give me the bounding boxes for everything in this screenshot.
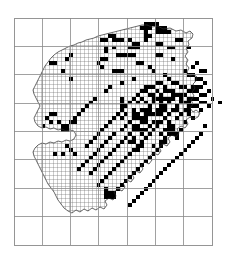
presence-cell bbox=[187, 144, 191, 148]
presence-cell bbox=[191, 65, 195, 69]
presence-cell bbox=[159, 108, 163, 112]
presence-cell bbox=[175, 116, 179, 120]
presence-cell bbox=[144, 101, 148, 105]
presence-cell bbox=[171, 124, 175, 128]
presence-cell bbox=[159, 120, 163, 124]
presence-cell bbox=[69, 53, 73, 57]
presence-cell bbox=[175, 38, 179, 42]
presence-cell bbox=[93, 136, 97, 140]
presence-cell bbox=[167, 120, 171, 124]
presence-cell bbox=[136, 112, 140, 116]
presence-cell bbox=[195, 136, 199, 140]
presence-cell bbox=[152, 69, 156, 73]
presence-cell bbox=[132, 108, 136, 112]
presence-cell bbox=[187, 101, 191, 105]
presence-cell bbox=[148, 85, 152, 89]
presence-cell bbox=[163, 167, 167, 171]
presence-cell bbox=[61, 124, 65, 128]
presence-cell bbox=[93, 167, 97, 171]
presence-cell bbox=[81, 163, 85, 167]
presence-cell bbox=[159, 81, 163, 85]
presence-cell bbox=[136, 124, 140, 128]
presence-cell bbox=[144, 85, 148, 89]
presence-cell bbox=[187, 89, 191, 93]
presence-cell bbox=[148, 183, 152, 187]
presence-cell bbox=[140, 108, 144, 112]
presence-cell bbox=[136, 61, 140, 65]
presence-cell bbox=[211, 97, 215, 101]
presence-cell bbox=[100, 65, 104, 69]
presence-cell bbox=[116, 53, 120, 57]
presence-cell bbox=[203, 81, 207, 85]
presence-cell bbox=[140, 61, 144, 65]
presence-cell bbox=[45, 116, 49, 120]
presence-cell bbox=[57, 120, 61, 124]
presence-cell bbox=[152, 85, 156, 89]
presence-cell bbox=[144, 26, 148, 30]
presence-cell bbox=[69, 77, 73, 81]
presence-cell bbox=[167, 163, 171, 167]
presence-cell bbox=[144, 89, 148, 93]
presence-cell bbox=[155, 30, 159, 34]
presence-cell bbox=[179, 101, 183, 105]
presence-cell bbox=[65, 57, 69, 61]
presence-cell bbox=[132, 53, 136, 57]
presence-cell bbox=[104, 195, 108, 199]
presence-cell bbox=[148, 93, 152, 97]
presence-cell bbox=[132, 148, 136, 152]
presence-cell bbox=[179, 93, 183, 97]
presence-cell bbox=[203, 69, 207, 73]
presence-cell bbox=[116, 163, 120, 167]
presence-cell bbox=[120, 140, 124, 144]
presence-cell bbox=[132, 77, 136, 81]
presence-cell bbox=[163, 104, 167, 108]
presence-cell bbox=[167, 89, 171, 93]
presence-cell bbox=[104, 89, 108, 93]
presence-cell bbox=[73, 152, 77, 156]
presence-cell bbox=[191, 140, 195, 144]
presence-cell bbox=[155, 53, 159, 57]
presence-cell bbox=[136, 148, 140, 152]
presence-cell bbox=[128, 132, 132, 136]
presence-cell bbox=[108, 191, 112, 195]
presence-cell bbox=[159, 42, 163, 46]
presence-cell bbox=[144, 136, 148, 140]
presence-cell bbox=[148, 132, 152, 136]
presence-cell bbox=[195, 89, 199, 93]
presence-cell bbox=[104, 191, 108, 195]
presence-cell bbox=[140, 144, 144, 148]
presence-cell bbox=[53, 112, 57, 116]
presence-cell bbox=[108, 136, 112, 140]
map-canvas bbox=[0, 0, 225, 263]
presence-cell bbox=[167, 132, 171, 136]
presence-cell bbox=[128, 120, 132, 124]
presence-cell bbox=[112, 148, 116, 152]
presence-cell bbox=[53, 61, 57, 65]
presence-cell bbox=[100, 38, 104, 42]
presence-cell bbox=[100, 144, 104, 148]
presence-cell bbox=[104, 175, 108, 179]
presence-cell bbox=[128, 53, 132, 57]
presence-cell bbox=[100, 179, 104, 183]
presence-cell bbox=[179, 112, 183, 116]
presence-cell bbox=[148, 112, 152, 116]
presence-cell bbox=[155, 120, 159, 124]
presence-cell bbox=[65, 144, 69, 148]
presence-cell bbox=[140, 26, 144, 30]
presence-cell bbox=[144, 116, 148, 120]
presence-cell bbox=[144, 187, 148, 191]
presence-cell bbox=[140, 116, 144, 120]
presence-cell bbox=[159, 93, 163, 97]
presence-cell bbox=[179, 97, 183, 101]
presence-cell bbox=[199, 69, 203, 73]
presence-cell bbox=[61, 152, 65, 156]
presence-cell bbox=[104, 187, 108, 191]
presence-cell bbox=[108, 85, 112, 89]
presence-cell bbox=[136, 42, 140, 46]
presence-cell bbox=[155, 81, 159, 85]
presence-cell bbox=[144, 120, 148, 124]
presence-cell bbox=[112, 116, 116, 120]
presence-cell bbox=[120, 108, 124, 112]
presence-cell bbox=[195, 85, 199, 89]
presence-cell bbox=[148, 124, 152, 128]
